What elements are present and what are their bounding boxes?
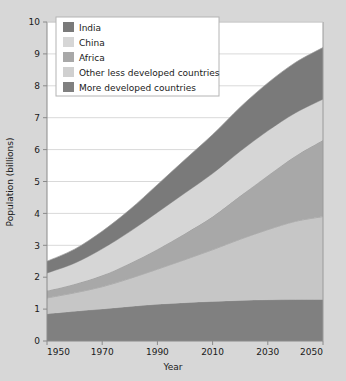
- legend-label: China: [79, 38, 105, 48]
- y-tick-label: 6: [34, 145, 40, 155]
- y-tick-label: 10: [29, 17, 41, 27]
- x-tick-label: 1950: [47, 347, 70, 357]
- x-tick-label: 1990: [146, 347, 169, 357]
- legend-label: Africa: [79, 53, 105, 63]
- y-tick-label: 1: [34, 304, 40, 314]
- y-tick-label: 5: [34, 177, 40, 187]
- legend-label: More developed countries: [79, 83, 196, 93]
- y-tick-label: 2: [34, 272, 40, 282]
- y-axis-title: Population (billions): [5, 138, 15, 227]
- y-tick-label: 4: [34, 209, 40, 219]
- legend-label: Other less developed countries: [79, 68, 220, 78]
- x-tick-label: 2010: [201, 347, 224, 357]
- y-tick-label: 8: [34, 81, 40, 91]
- x-tick-label: 2050: [300, 347, 323, 357]
- y-tick-label: 0: [34, 336, 40, 346]
- legend-swatch: [63, 52, 74, 62]
- x-axis-title: Year: [162, 362, 182, 372]
- population-stacked-area-chart: 012345678910 195019701990201020302050 Ye…: [0, 0, 346, 381]
- legend-swatch: [63, 67, 74, 77]
- legend-swatch: [63, 82, 74, 92]
- chart-legend: IndiaChinaAfricaOther less developed cou…: [56, 17, 220, 96]
- y-tick-label: 3: [34, 241, 40, 251]
- y-tick-label: 7: [34, 113, 40, 123]
- legend-label: India: [79, 23, 101, 33]
- y-tick-label: 9: [34, 49, 40, 59]
- legend-swatch: [63, 37, 74, 47]
- legend-swatch: [63, 22, 74, 32]
- chart-canvas: 012345678910 195019701990201020302050 Ye…: [0, 0, 346, 381]
- x-tick-label: 2030: [256, 347, 279, 357]
- x-tick-label: 1970: [91, 347, 114, 357]
